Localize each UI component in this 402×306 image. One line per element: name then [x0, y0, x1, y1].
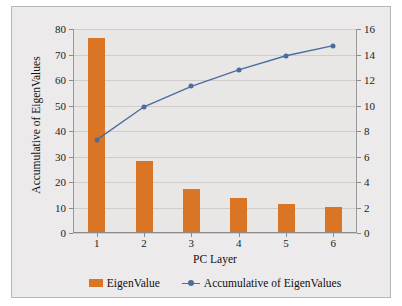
left-axis-tick-label: 20: [55, 176, 66, 188]
left-axis-tick-label: 0: [61, 227, 67, 239]
right-axis-tick: [357, 182, 361, 183]
left-axis-tick: [69, 157, 73, 158]
right-axis-tick-label: 0: [364, 227, 370, 239]
legend-item-accumulative[interactable]: Accumulative of EigenValues: [182, 277, 341, 289]
line-series-accumulative: [73, 29, 357, 233]
data-point-marker[interactable]: [331, 43, 336, 48]
legend-label-accumulative: Accumulative of EigenValues: [204, 277, 341, 289]
right-axis-tick: [357, 80, 361, 81]
x-axis-tick-label: 2: [141, 237, 147, 249]
right-axis-tick-label: 16: [364, 23, 375, 35]
right-axis-tick-label: 14: [364, 49, 375, 61]
right-axis-tick-label: 6: [364, 151, 370, 163]
right-axis-tick: [357, 55, 361, 56]
gridline: [73, 233, 357, 234]
right-axis-tick-label: 2: [364, 202, 370, 214]
left-axis-tick: [69, 233, 73, 234]
left-axis-tick-label: 70: [55, 49, 66, 61]
left-axis-tick: [69, 182, 73, 183]
line-swatch-icon: [182, 279, 200, 287]
chart-legend: EigenValue Accumulative of EigenValues: [73, 277, 357, 289]
right-axis-tick: [357, 106, 361, 107]
figure-frame: 01020304050607080 0246810121416 123456 A…: [11, 6, 391, 298]
x-axis-tick-label: 4: [236, 237, 242, 249]
left-axis-tick-label: 60: [55, 74, 66, 86]
left-axis-tick: [69, 106, 73, 107]
right-axis-tick-label: 8: [364, 125, 370, 137]
left-axis-tick-label: 50: [55, 100, 66, 112]
right-axis-tick-label: 4: [364, 176, 370, 188]
data-point-marker[interactable]: [189, 84, 194, 89]
left-axis-title: Accumulative of EigenValues: [30, 30, 42, 220]
x-axis-tick-label: 3: [189, 237, 195, 249]
left-axis-tick: [69, 131, 73, 132]
data-point-marker[interactable]: [94, 137, 99, 142]
left-axis-tick-labels: 01020304050607080: [40, 29, 66, 233]
left-axis-tick: [69, 55, 73, 56]
data-point-marker[interactable]: [142, 104, 147, 109]
left-axis-tick: [69, 208, 73, 209]
legend-item-eigenvalue[interactable]: EigenValue: [89, 277, 160, 289]
left-axis-tick-label: 40: [55, 125, 66, 137]
right-axis-tick: [357, 233, 361, 234]
right-axis-tick-labels: 0246810121416: [364, 29, 390, 233]
left-axis-tick: [69, 29, 73, 30]
right-axis-tick-label: 12: [364, 74, 375, 86]
bar-swatch-icon: [89, 279, 103, 287]
right-axis-tick: [357, 131, 361, 132]
x-axis-title: PC Layer: [73, 253, 357, 265]
left-axis-tick-label: 80: [55, 23, 66, 35]
legend-label-eigenvalue: EigenValue: [107, 277, 160, 289]
right-axis-tick-label: 10: [364, 100, 375, 112]
x-axis-tick-label: 6: [331, 237, 337, 249]
x-axis-tick-labels: 123456: [73, 237, 357, 253]
right-axis-tick: [357, 157, 361, 158]
right-axis-tick: [357, 208, 361, 209]
data-point-marker[interactable]: [284, 53, 289, 58]
chart-figure: 01020304050607080 0246810121416 123456 A…: [0, 0, 402, 306]
right-axis-tick: [357, 29, 361, 30]
plot-area: [73, 29, 357, 233]
left-axis-tick: [69, 80, 73, 81]
left-axis-tick-label: 10: [55, 202, 66, 214]
x-axis-tick-label: 5: [283, 237, 289, 249]
x-axis-tick-label: 1: [94, 237, 100, 249]
data-point-marker[interactable]: [236, 67, 241, 72]
left-axis-tick-label: 30: [55, 151, 66, 163]
